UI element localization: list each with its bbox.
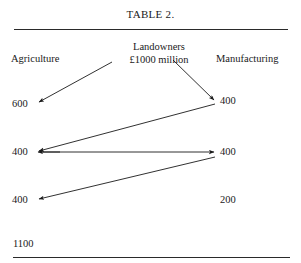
value-manufacturing-row2: 400 — [220, 146, 236, 157]
value-manufacturing-row3: 200 — [220, 194, 236, 205]
table-top-rule — [14, 29, 288, 30]
column-header-agriculture: Agriculture — [11, 53, 59, 64]
value-total: 1100 — [13, 238, 34, 249]
column-header-landowners-amount: £1000 million — [104, 53, 214, 66]
page-title: TABLE 2. — [0, 8, 301, 20]
value-agriculture-row3: 400 — [12, 194, 28, 205]
flow-arrow-landowners-to-agriculture — [39, 62, 112, 102]
table-bottom-rule — [13, 257, 290, 258]
value-agriculture-row2: 400 — [12, 146, 28, 157]
table-figure: TABLE 2. Agriculture Landowners £1000 mi… — [0, 0, 301, 263]
column-header-manufacturing: Manufacturing — [216, 53, 278, 64]
column-header-landowners: Landowners £1000 million — [104, 40, 214, 66]
flow-arrow-manufacturing-to-agriculture-upper — [39, 104, 215, 151]
flow-arrow-manufacturing-to-agriculture-lower — [39, 157, 215, 199]
column-header-landowners-line1: Landowners — [104, 40, 214, 53]
flow-arrow-landowners-to-manufacturing — [173, 60, 214, 100]
value-manufacturing-row1: 400 — [220, 95, 236, 106]
value-agriculture-row1: 600 — [12, 98, 28, 109]
